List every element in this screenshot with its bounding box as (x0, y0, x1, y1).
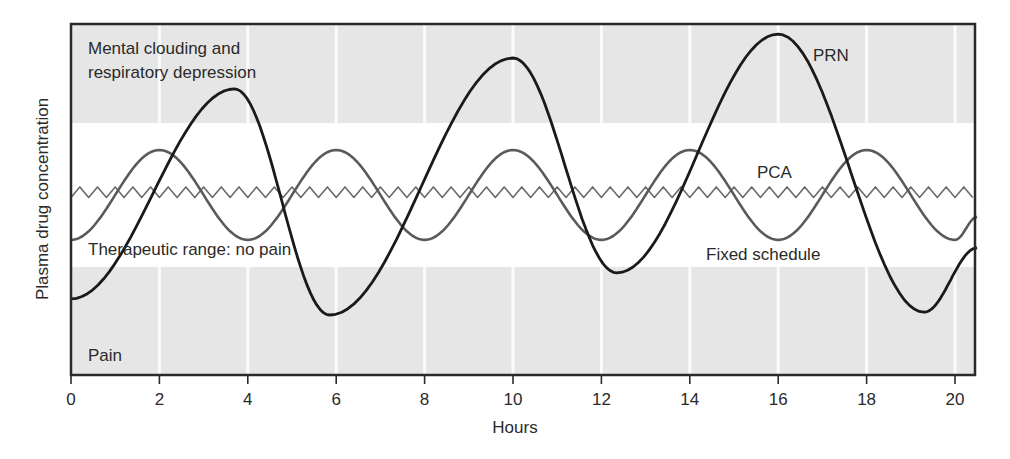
fixed-schedule-series-line (71, 150, 977, 240)
x-tick-label: 14 (680, 390, 699, 409)
pca-series-label: PCA (757, 163, 793, 182)
x-axis-ticks: 02468101214161820 (66, 375, 964, 409)
chart: 02468101214161820 Mental clouding and re… (0, 0, 1010, 459)
x-tick-label: 0 (66, 390, 75, 409)
therapeutic-range-label: Therapeutic range: no pain (88, 240, 291, 259)
prn-series-label: PRN (813, 46, 849, 65)
x-tick-label: 20 (946, 390, 965, 409)
x-tick-label: 4 (243, 390, 252, 409)
y-axis-label: Plasma drug concentration (33, 98, 52, 300)
x-axis-label: Hours (492, 418, 537, 437)
x-tick-label: 10 (504, 390, 523, 409)
x-tick-label: 2 (155, 390, 164, 409)
toxic-band-label-line2: respiratory depression (88, 63, 256, 82)
pca-series-line (71, 187, 973, 198)
pain-band-label: Pain (88, 346, 122, 365)
fixed-schedule-series-label: Fixed schedule (706, 245, 820, 264)
toxic-band-label-line1: Mental clouding and (88, 39, 240, 58)
x-tick-label: 12 (592, 390, 611, 409)
x-tick-label: 8 (420, 390, 429, 409)
x-tick-label: 18 (857, 390, 876, 409)
x-tick-label: 6 (331, 390, 340, 409)
pain-band (71, 267, 975, 375)
x-tick-label: 16 (769, 390, 788, 409)
